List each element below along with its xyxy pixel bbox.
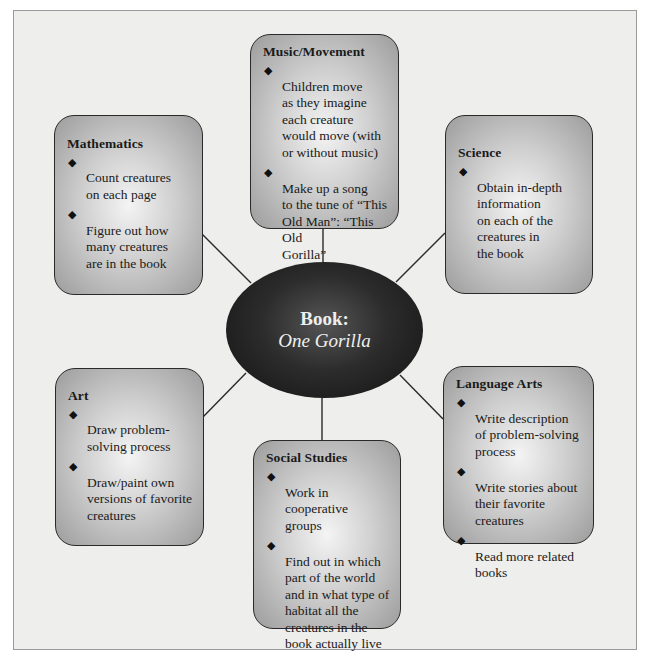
diamond-icon: ◆ xyxy=(264,62,272,79)
list-item: ◆Obtain in-depth information on each of … xyxy=(458,163,584,262)
diamond-icon: ◆ xyxy=(68,206,76,223)
node-title: Music/Movement xyxy=(263,43,390,60)
node-title: Mathematics xyxy=(67,135,194,152)
node-title: Science xyxy=(458,144,584,161)
diamond-icon: ◆ xyxy=(457,394,465,411)
connector-language-arts xyxy=(400,375,443,419)
node-title: Art xyxy=(68,387,195,404)
diamond-icon: ◆ xyxy=(267,537,275,554)
list-item: ◆Read more related books xyxy=(456,532,585,582)
node-music-movement: Music/Movement ◆Children move as they im… xyxy=(250,34,399,229)
bullet-list: ◆Children move as they imagine each crea… xyxy=(263,62,390,266)
node-title: Language Arts xyxy=(456,375,585,392)
list-item: ◆Children move as they imagine each crea… xyxy=(263,62,390,161)
diamond-icon: ◆ xyxy=(69,406,77,423)
list-item: ◆Draw problem- solving process xyxy=(68,406,195,456)
diamond-icon: ◆ xyxy=(457,463,465,480)
diamond-icon: ◆ xyxy=(457,532,465,549)
node-science: Science ◆Obtain in-depth information on … xyxy=(445,115,593,294)
node-social-studies: Social Studies ◆Work in cooperative grou… xyxy=(253,440,401,629)
node-art: Art ◆Draw problem- solving process ◆Draw… xyxy=(55,368,204,546)
bullet-list: ◆Count creatures on each page ◆Figure ou… xyxy=(67,154,194,276)
list-item: ◆Write stories about their favorite crea… xyxy=(456,463,585,529)
diamond-icon: ◆ xyxy=(68,154,76,171)
central-topic-title: One Gorilla xyxy=(278,330,370,352)
bullet-list: ◆Work in cooperative groups ◆Find out in… xyxy=(266,468,392,656)
node-title: Social Studies xyxy=(266,449,392,466)
connector-art xyxy=(203,373,246,417)
list-item: ◆Draw/paint own versions of favorite cre… xyxy=(68,458,195,524)
bullet-list: ◆Obtain in-depth information on each of … xyxy=(458,163,584,265)
central-topic-label: Book: xyxy=(300,308,349,330)
list-item: ◆Figure out how many creatures are in th… xyxy=(67,206,194,272)
central-topic: Book: One Gorilla xyxy=(226,262,423,398)
list-item: ◆Write description of problem-solving pr… xyxy=(456,394,585,460)
bullet-list: ◆Draw problem- solving process ◆Draw/pai… xyxy=(68,406,195,528)
bullet-list: ◆Write description of problem-solving pr… xyxy=(456,394,585,585)
connector-science xyxy=(396,233,445,282)
node-language-arts: Language Arts ◆Write description of prob… xyxy=(443,366,594,544)
connector-mathematics xyxy=(202,234,251,283)
diamond-icon: ◆ xyxy=(264,164,272,181)
diamond-icon: ◆ xyxy=(69,458,77,475)
diamond-icon: ◆ xyxy=(459,163,467,180)
list-item: ◆Count creatures on each page xyxy=(67,154,194,204)
list-item: ◆Make up a song to the tune of “This Old… xyxy=(263,164,390,263)
node-mathematics: Mathematics ◆Count creatures on each pag… xyxy=(54,115,203,295)
diamond-icon: ◆ xyxy=(267,468,275,485)
list-item: ◆Find out in which part of the world and… xyxy=(266,537,392,653)
list-item: ◆Work in cooperative groups xyxy=(266,468,392,534)
